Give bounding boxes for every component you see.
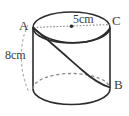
cylinder-diagram: A C B 5cm 8cm xyxy=(0,0,129,116)
bottom-ellipse-visible-arc xyxy=(33,89,110,105)
height-dimension-label: 8cm xyxy=(5,49,26,61)
radius-dimension-label: 5cm xyxy=(73,13,94,25)
vertex-label-a: A xyxy=(19,19,28,32)
bottom-ellipse-hidden-arc xyxy=(33,74,110,90)
top-front-rim-highlight xyxy=(34,28,111,43)
vertex-label-b: B xyxy=(114,78,123,91)
vertex-label-c: C xyxy=(112,14,121,27)
